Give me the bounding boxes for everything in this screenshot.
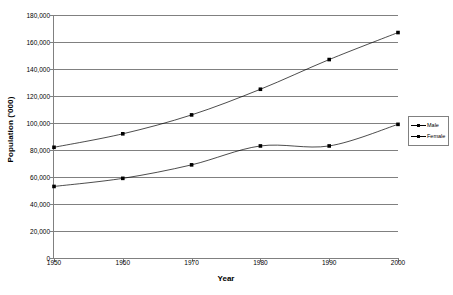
series-line: [54, 124, 398, 186]
y-tick-label: 60,000: [6, 174, 50, 181]
data-point: [259, 87, 263, 91]
y-tick-label: 20,000: [6, 228, 50, 235]
data-point: [121, 132, 125, 136]
x-axis-tick-labels: 195019601970198019902000: [54, 259, 398, 271]
legend-marker-icon: [411, 122, 426, 129]
x-tick-label: 1970: [172, 259, 212, 267]
y-tick-label: 100,000: [6, 120, 50, 127]
x-tick-label: 1960: [103, 259, 143, 267]
y-tick-label: 120,000: [6, 93, 50, 100]
y-axis-tick-labels: 020,00040,00060,00080,000100,000120,0001…: [0, 0, 50, 295]
x-tick-label: 1990: [309, 259, 349, 267]
legend-label: Male: [426, 122, 439, 129]
x-tick-label: 1950: [34, 259, 74, 267]
series-male: [52, 31, 400, 149]
series-line: [54, 33, 398, 148]
series-layer: [54, 15, 398, 258]
data-point: [52, 185, 56, 189]
chart-legend: MaleFemale: [408, 116, 449, 146]
y-tick-label: 80,000: [6, 147, 50, 154]
x-tick-label: 1980: [240, 259, 280, 267]
data-point: [190, 163, 194, 167]
y-tick-label: 160,000: [6, 39, 50, 46]
legend-marker-icon: [411, 133, 426, 140]
series-female: [52, 123, 400, 189]
x-tick-label: 2000: [378, 259, 418, 267]
data-point: [52, 146, 56, 150]
plot-area: [54, 15, 398, 258]
legend-entry-female[interactable]: Female: [411, 131, 446, 142]
data-point: [396, 31, 400, 35]
line-chart: Population ('000) 020,00040,00060,00080,…: [0, 0, 453, 295]
data-point: [121, 177, 125, 181]
data-point: [190, 113, 194, 117]
x-axis-title: Year: [54, 274, 398, 283]
y-tick-label: 40,000: [6, 201, 50, 208]
y-tick-label: 140,000: [6, 66, 50, 73]
y-tick-label: 180,000: [6, 12, 50, 19]
legend-entry-male[interactable]: Male: [411, 120, 446, 131]
data-point: [327, 58, 331, 62]
data-point: [396, 123, 400, 127]
data-point: [259, 144, 263, 148]
data-point: [327, 144, 331, 148]
legend-label: Female: [426, 133, 445, 140]
